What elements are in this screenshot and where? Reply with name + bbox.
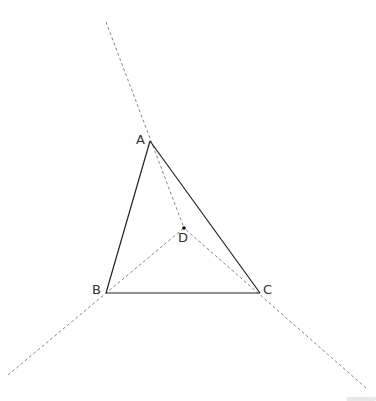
diagram-svg [0,0,376,401]
dashed-line-bd [8,228,184,375]
label-c: C [263,283,272,296]
segment-ab [106,141,150,293]
dashed-line-cd [184,228,366,388]
label-d: D [178,231,188,244]
label-b: B [92,283,101,296]
scrollbar-hint[interactable] [346,397,376,401]
label-a: A [136,133,145,146]
dashed-line-ad [106,22,184,228]
diagram-canvas: A B C D [0,0,376,401]
segment-ca [150,141,260,293]
